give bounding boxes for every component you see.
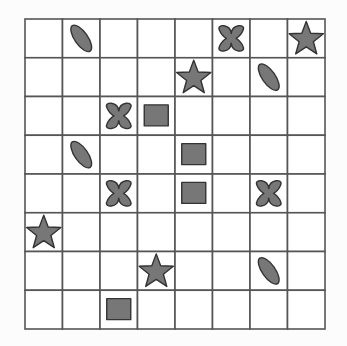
board-cell[interactable] [100,58,138,97]
square-piece-icon[interactable] [182,182,206,203]
board-cell[interactable] [250,97,288,136]
board-cell[interactable] [25,290,63,329]
game-board [24,18,324,328]
board-cell[interactable] [63,97,101,136]
board-cell[interactable] [25,135,63,174]
board-cell[interactable] [25,97,63,136]
board-cell[interactable] [175,97,213,136]
board-cell[interactable] [250,135,288,174]
board-cell[interactable] [63,58,101,97]
board-cell[interactable] [25,19,63,58]
board-cell[interactable] [213,174,251,213]
board-cell[interactable] [288,58,326,97]
board-cell[interactable] [288,290,326,329]
board-cell[interactable] [213,58,251,97]
board-cell[interactable] [138,135,176,174]
board-cell[interactable] [175,252,213,291]
board-cell[interactable] [250,19,288,58]
square-piece-icon[interactable] [144,105,168,126]
board-cell[interactable] [100,135,138,174]
board-cell[interactable] [213,252,251,291]
board-cell[interactable] [25,252,63,291]
board-cell[interactable] [100,252,138,291]
board-cell[interactable] [213,290,251,329]
board-cell[interactable] [138,290,176,329]
board-cell[interactable] [63,174,101,213]
board-cell[interactable] [175,19,213,58]
board-cell[interactable] [175,213,213,252]
board-cell[interactable] [213,135,251,174]
board-cell[interactable] [250,290,288,329]
board-cell[interactable] [213,213,251,252]
square-piece-icon[interactable] [182,144,206,165]
board-cell[interactable] [63,290,101,329]
board-cell[interactable] [175,290,213,329]
square-piece-icon[interactable] [107,299,131,320]
board-cell[interactable] [213,97,251,136]
board-cell[interactable] [288,252,326,291]
board-cell[interactable] [288,213,326,252]
board-cell[interactable] [25,58,63,97]
board-cell[interactable] [288,97,326,136]
board-cell[interactable] [138,174,176,213]
board-cell[interactable] [25,174,63,213]
board-cell[interactable] [63,252,101,291]
board-cell[interactable] [63,213,101,252]
board-cell[interactable] [100,213,138,252]
board-cell[interactable] [138,19,176,58]
board-cell[interactable] [288,174,326,213]
board-cell[interactable] [138,58,176,97]
board-cell[interactable] [138,213,176,252]
board-cell[interactable] [288,135,326,174]
board-grid [24,18,326,330]
board-cell[interactable] [250,213,288,252]
board-cell[interactable] [100,19,138,58]
